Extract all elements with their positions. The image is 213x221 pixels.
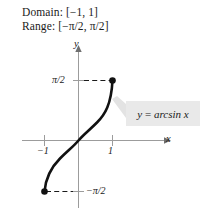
callout-leader (112, 96, 126, 118)
equation-callout-text: y = arcsin x (137, 108, 188, 120)
domain-range-annotation: Domain: [−1, 1] Range: [−π/2, π/2] (22, 6, 109, 33)
endpoint-dot-upper (109, 77, 116, 84)
tick-label-one: 1 (108, 145, 113, 156)
equation-rhs: arcsin x (154, 108, 189, 120)
y-axis-label: y (74, 38, 79, 49)
domain-text: Domain: [−1, 1] (22, 6, 109, 20)
tick-label-pi-over-2: π/2 (52, 74, 65, 85)
x-axis-label: x (166, 133, 171, 144)
tick-label-neg-one: −1 (37, 145, 49, 156)
equation-callout: y = arcsin x (126, 101, 200, 126)
range-text: Range: [−π/2, π/2] (22, 20, 109, 34)
endpoint-dot-lower (41, 188, 48, 195)
tick-label-neg-pi-over-2: −π/2 (86, 185, 106, 196)
